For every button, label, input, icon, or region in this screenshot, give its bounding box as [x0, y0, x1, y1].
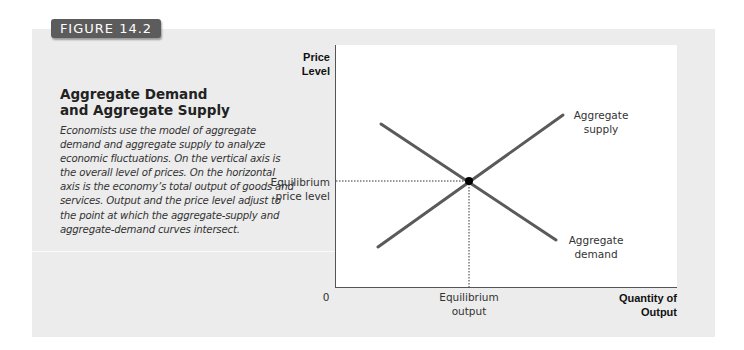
aggregate-demand-label: Aggregate demand [561, 233, 631, 261]
aggregate-demand-label-line1: Aggregate [561, 233, 631, 247]
equilibrium-output-label-line1: Equilibrium [434, 290, 504, 304]
x-axis-title-line2: Output [597, 305, 677, 319]
y-axis-title: Price Level [290, 50, 330, 78]
equilibrium-price-label-line2: price level [262, 189, 330, 203]
aggregate-demand-label-line2: demand [561, 247, 631, 261]
aggregate-supply-label-line1: Aggregate [566, 108, 636, 122]
equilibrium-output-label: Equilibrium output [434, 290, 504, 318]
x-axis-title-line1: Quantity of [597, 291, 677, 305]
origin-label: 0 [320, 290, 332, 304]
y-axis-title-line1: Price [290, 50, 330, 64]
x-axis-title: Quantity of Output [597, 291, 677, 319]
equilibrium-output-label-line2: output [434, 304, 504, 318]
equilibrium-point [465, 177, 473, 185]
aggregate-supply-label-line2: supply [566, 122, 636, 136]
equilibrium-price-label: Equilibrium price level [262, 175, 330, 203]
aggregate-supply-label: Aggregate supply [566, 108, 636, 136]
y-axis-title-line2: Level [290, 64, 330, 78]
equilibrium-price-label-line1: Equilibrium [262, 175, 330, 189]
